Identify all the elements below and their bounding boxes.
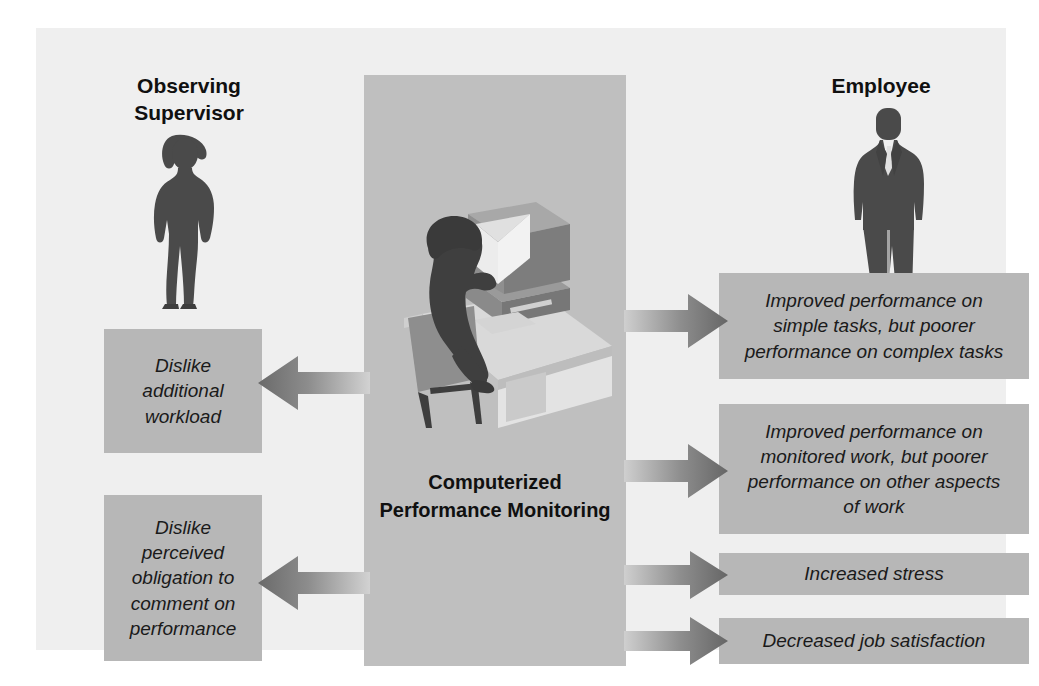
female-supervisor-silhouette-icon <box>134 134 239 309</box>
box-line: Increased stress <box>804 561 943 586</box>
box-line: performance on other aspects <box>748 469 1000 494</box>
box-line: monitored work, but poorer <box>748 444 1000 469</box>
supervisor-label-line-2: Supervisor <box>134 101 244 124</box>
diagram-panel: Computerized Performance Monitoring Obse… <box>36 28 1006 650</box>
arrow-right-to-monitored-work-icon <box>624 440 728 502</box>
arrow-right-to-increased-stress-icon <box>624 548 728 602</box>
box-line: obligation to <box>130 565 237 590</box>
box-line: workload <box>142 404 223 429</box>
box-line: Improved performance on <box>748 419 1000 444</box>
arrow-left-to-dislike-workload-icon <box>258 352 370 414</box>
box-line: Decreased job satisfaction <box>763 628 986 653</box>
box-increased-stress[interactable]: Increased stress <box>719 553 1029 595</box>
arrow-right-to-decreased-satisfaction-icon <box>624 614 728 668</box>
center-title-line-1: Computerized <box>428 471 561 493</box>
employee-label: Employee <box>791 72 971 99</box>
center-title: Computerized Performance Monitoring <box>376 468 614 525</box>
box-line: simple tasks, but poorer <box>745 313 1004 338</box>
person-at-computer-workstation-icon <box>370 196 622 428</box>
box-line: Improved performance on <box>745 288 1004 313</box>
box-line: perceived <box>130 540 237 565</box>
employee-label-text: Employee <box>831 74 930 97</box>
box-line: Dislike <box>130 515 237 540</box>
arrow-right-to-simple-complex-icon <box>624 290 728 352</box>
box-line: Dislike <box>142 353 223 378</box>
diagram-canvas: Computerized Performance Monitoring Obse… <box>0 0 1039 686</box>
supervisor-label: Observing Supervisor <box>99 72 279 127</box>
arrow-left-to-dislike-obligation-icon <box>258 552 370 614</box>
box-line: performance <box>130 616 237 641</box>
supervisor-label-line-1: Observing <box>137 74 241 97</box>
male-employee-silhouette-icon <box>836 106 941 301</box>
center-title-line-3: Monitoring <box>507 499 610 521</box>
box-improved-simple-poorer-complex[interactable]: Improved performance on simple tasks, bu… <box>719 273 1029 379</box>
center-title-line-2: Performance <box>379 499 501 521</box>
box-dislike-additional-workload[interactable]: Dislike additional workload <box>104 329 262 453</box>
box-line: of work <box>748 494 1000 519</box>
box-dislike-perceived-obligation[interactable]: Dislike perceived obligation to comment … <box>104 495 262 661</box>
box-improved-monitored-poorer-other[interactable]: Improved performance on monitored work, … <box>719 404 1029 534</box>
box-decreased-job-satisfaction[interactable]: Decreased job satisfaction <box>719 618 1029 664</box>
box-line: additional <box>142 378 223 403</box>
box-line: performance on complex tasks <box>745 339 1004 364</box>
box-line: comment on <box>130 591 237 616</box>
